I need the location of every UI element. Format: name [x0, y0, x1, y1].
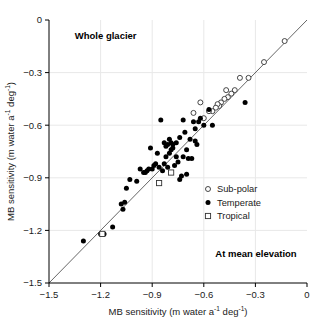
data-point — [210, 123, 215, 128]
chart-figure: −1.5−1.2−0.9−0.6−0.30−1.5−1.2−0.9−0.6−0.… — [0, 0, 326, 330]
legend-marker-open-square — [205, 213, 210, 218]
y-axis-title: MB sensitivity (m water a-1 deg-1) — [4, 82, 16, 221]
reference-line-1to1 — [49, 20, 307, 283]
data-point — [194, 142, 199, 147]
data-point — [148, 145, 153, 150]
x-axis-tick-label: −0.9 — [143, 289, 162, 300]
data-point — [184, 172, 189, 177]
data-point — [177, 177, 182, 182]
data-point — [243, 100, 248, 105]
legend-label-temperate: Temperate — [217, 198, 261, 208]
data-point — [177, 135, 182, 140]
data-point — [181, 117, 186, 122]
data-point — [262, 60, 267, 65]
data-point — [174, 154, 179, 159]
data-point — [201, 123, 206, 128]
legend-label-tropical: Tropical — [217, 211, 250, 221]
data-point — [169, 170, 174, 175]
data-point — [162, 140, 167, 145]
annotation-whole-glacier: Whole glacier — [75, 30, 137, 41]
x-axis-title: MB sensitivity (m water a-1 deg-1) — [109, 305, 248, 317]
data-point — [155, 151, 160, 156]
x-axis-tick-label: 0 — [304, 289, 309, 300]
scatter-plot-svg: −1.5−1.2−0.9−0.6−0.30−1.5−1.2−0.9−0.6−0.… — [0, 0, 326, 330]
legend-label-sub-polar: Sub-polar — [217, 184, 257, 194]
data-point — [191, 119, 196, 124]
legend-marker-filled-circle — [206, 200, 211, 205]
data-point — [156, 180, 161, 185]
data-point — [172, 163, 177, 168]
y-axis-tick-label: −0.6 — [23, 120, 42, 131]
data-point — [224, 88, 229, 93]
x-axis-tick-label: −0.3 — [246, 289, 265, 300]
data-point — [81, 238, 86, 243]
data-point — [134, 179, 139, 184]
data-point — [162, 161, 167, 166]
y-axis-tick-label: −1.2 — [23, 225, 42, 236]
y-axis-tick-label: −0.9 — [23, 172, 42, 183]
x-axis-tick-label: −1.5 — [40, 289, 59, 300]
data-point — [198, 100, 203, 105]
data-point — [127, 177, 132, 182]
data-point — [184, 147, 189, 152]
legend-marker-open-circle — [206, 187, 211, 192]
data-point — [158, 117, 163, 122]
x-axis-tick-label: −1.2 — [91, 289, 110, 300]
data-point — [100, 231, 105, 236]
data-point — [181, 154, 186, 159]
data-point — [206, 107, 211, 112]
data-point — [188, 137, 193, 142]
annotation-at-mean-elevation: At mean elevation — [215, 248, 296, 259]
data-point — [196, 119, 201, 124]
data-point — [237, 75, 242, 80]
data-point — [167, 137, 172, 142]
data-point — [110, 224, 115, 229]
data-point — [138, 167, 143, 172]
x-axis-tick-label: −0.6 — [194, 289, 213, 300]
data-point — [124, 186, 129, 191]
data-point — [282, 39, 287, 44]
data-point — [191, 110, 196, 115]
series-sub-polar — [191, 39, 287, 121]
data-point — [163, 154, 168, 159]
y-axis-tick-label: −1.5 — [23, 277, 42, 288]
data-point — [182, 130, 187, 135]
data-point — [246, 75, 251, 80]
data-point — [119, 202, 124, 207]
y-axis-tick-label: 0 — [37, 14, 42, 25]
data-point — [120, 207, 125, 212]
y-axis-tick-label: −0.3 — [23, 67, 42, 78]
series-temperate — [81, 100, 248, 244]
legend: Sub-polarTemperateTropical — [205, 184, 261, 221]
data-point — [193, 126, 198, 131]
data-point — [189, 156, 194, 161]
